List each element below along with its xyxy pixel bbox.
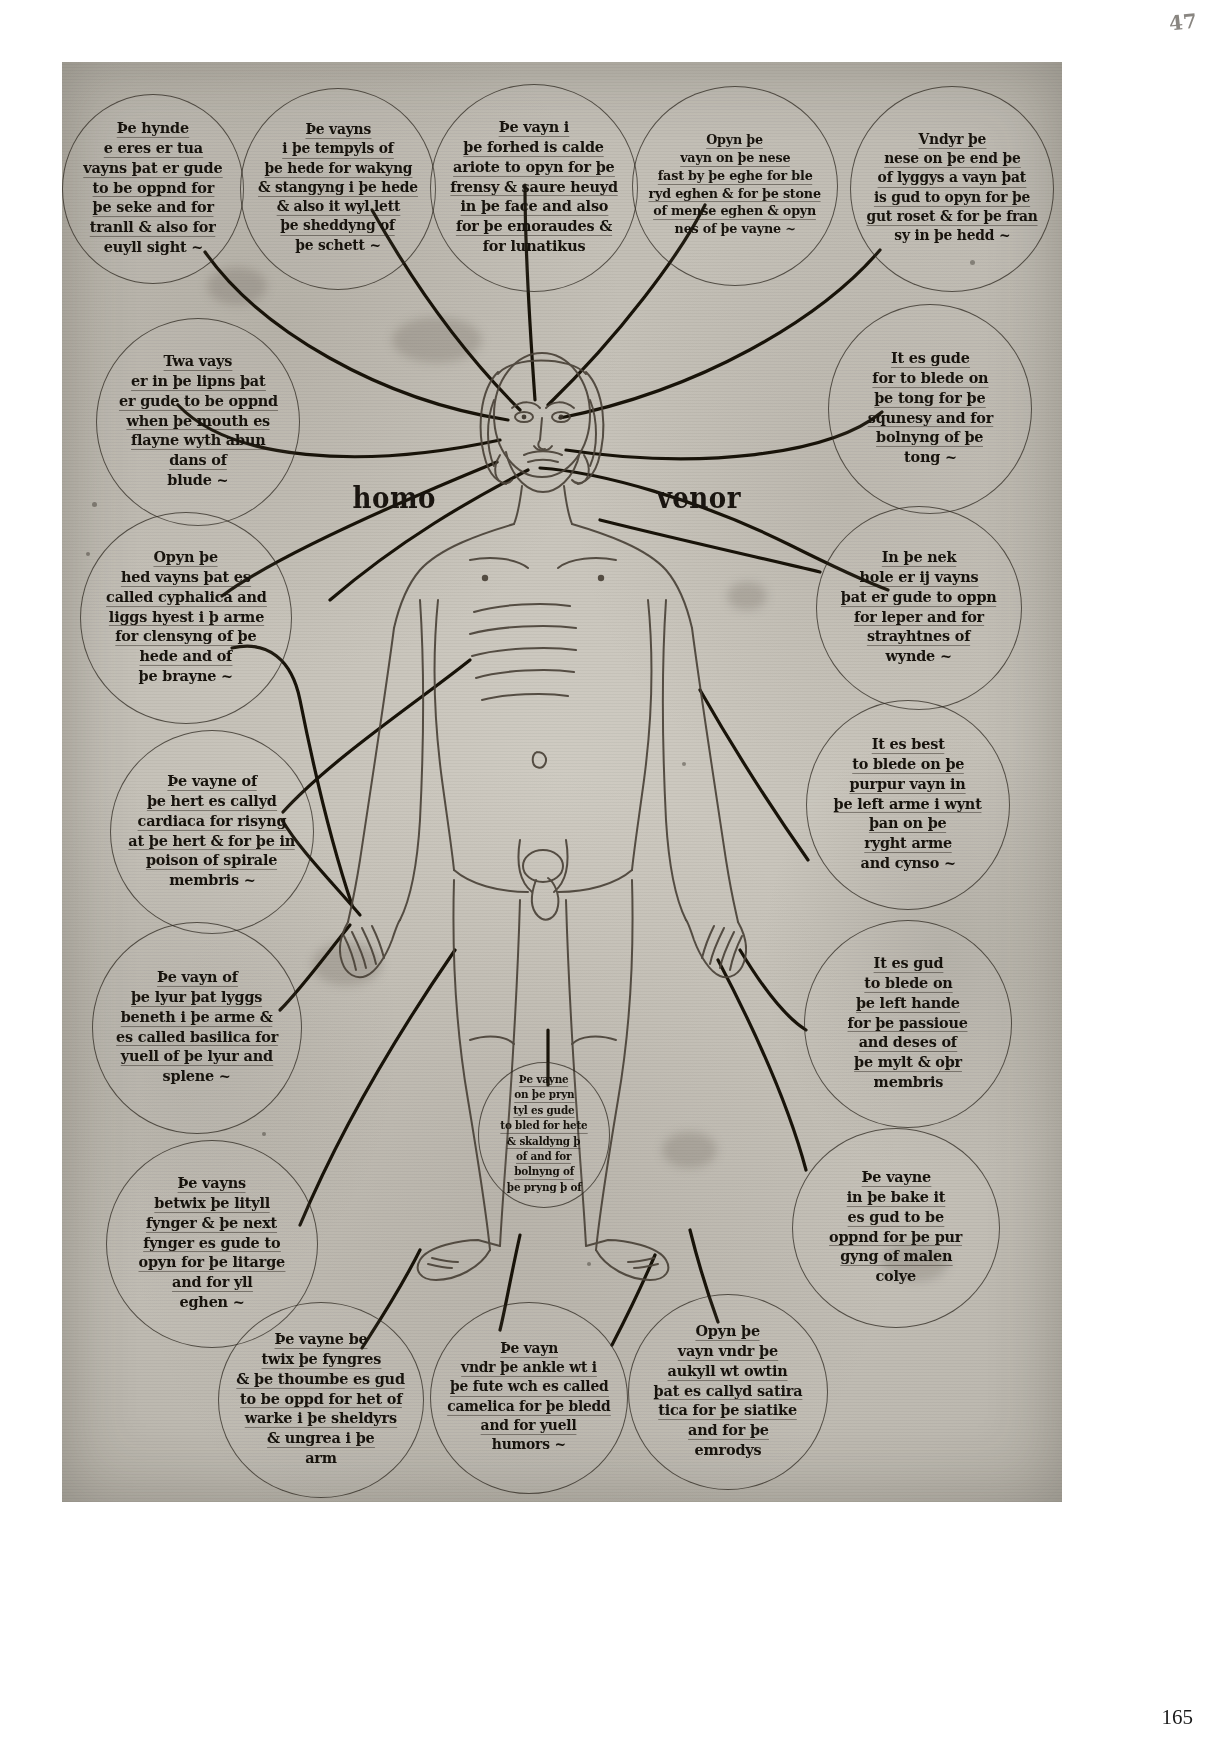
circle-back-vein[interactable]: Þe vaynein þe bake ites gud to beoppnd f… (792, 1128, 1000, 1328)
circle-text-line: i þe tempyls of (282, 141, 393, 158)
page-number: 165 (1162, 1705, 1194, 1730)
circle-text-line: strayhtnes of (867, 628, 970, 646)
circle-text-line: opyn for þe litarge (139, 1254, 286, 1272)
circle-heart-cardiaca[interactable]: Þe vayne ofþe hert es callydcardiaca for… (110, 730, 314, 934)
circle-liver-basilica[interactable]: Þe vayn ofþe lyur þat lyggsbeneth i þe a… (92, 922, 302, 1134)
circle-text-line: es gud to be (848, 1209, 944, 1227)
circle-head-cephalica[interactable]: Opyn þehed vayns þat escalled cyphalica … (80, 512, 292, 724)
circle-text-line: euyll sight ~ (103, 239, 202, 256)
circle-eyes-vein[interactable]: Þe hyndee eres er tuavayns þat er gudeto… (62, 94, 244, 284)
circle-text-line: of mense eghen & opyn (653, 204, 816, 220)
circle-text-line: gyng of malen (840, 1248, 952, 1266)
circle-text-line: to be oppd for het of (240, 1391, 402, 1409)
circle-text-line: on þe pryn (514, 1089, 574, 1102)
circle-text-line: is gud to opyn for þe (874, 190, 1030, 207)
circle-text-line: þe brayne ~ (139, 668, 233, 685)
circle-text-line: & skaldyng þ (507, 1136, 581, 1149)
circle-text-line: In þe nek (882, 549, 956, 567)
circle-text-line: Opyn þe (696, 1323, 760, 1341)
circle-text-line: vayns þat er gude (83, 160, 222, 178)
circle-text-line: nes of þe vayne ~ (674, 222, 795, 237)
circle-text-line: tyl es gude (513, 1105, 574, 1118)
circle-text-line: dans of (169, 452, 227, 470)
circle-text-line: wynde ~ (886, 648, 952, 665)
circle-text-line: called cyphalica and (106, 589, 267, 607)
circle-text-line: ariote to opyn for þe (453, 159, 615, 177)
circle-text-line: and for yuell (481, 1418, 577, 1435)
circle-text-line: humors ~ (492, 1437, 566, 1453)
circle-text-line: and for þe (688, 1422, 769, 1440)
circle-text-line: betwix þe lityll (154, 1195, 270, 1213)
circle-text-line: to blede on (864, 975, 952, 993)
circle-text-line: membris (873, 1074, 943, 1091)
circle-text-line: & stangyng i þe hede (258, 180, 418, 197)
circle-text-line: þe left hande (856, 995, 960, 1013)
circle-text-line: for to blede on (872, 370, 988, 388)
circle-text-line: in þe face and also (460, 198, 608, 216)
circle-text-line: It es gud (873, 955, 943, 973)
circle-text-line: Þe vayne (861, 1169, 930, 1187)
circle-text-line: þe schett ~ (295, 238, 381, 254)
circle-text-line: yuell of þe lyur and (121, 1048, 273, 1066)
circle-temple-vein[interactable]: Þe vaynsi þe tempyls ofþe hede for wakyn… (240, 88, 436, 290)
circle-text-line: blude ~ (167, 472, 228, 489)
circle-text-line: Þe hynde (117, 120, 189, 138)
circle-nose-eye-vein[interactable]: Opyn þevayn on þe nesefast by þe eghe fo… (632, 86, 838, 286)
circle-text-line: of lyggys a vayn þat (878, 170, 1026, 187)
circle-text-line: bolnyng of (514, 1166, 574, 1179)
circle-text-line: þe forhed is calde (464, 139, 605, 157)
circle-text-line: hole er ij vayns (860, 569, 979, 587)
circle-text-line: cardiaca for risyng (138, 813, 287, 831)
circle-purple-vein-arm[interactable]: It es bestto blede on þepurpur vayn inþe… (806, 700, 1010, 910)
circle-text-line: Opyn þe (154, 549, 218, 567)
circle-text-line: þe sheddyng of (281, 218, 396, 235)
circle-text-line: gut roset & for þe fran (866, 209, 1037, 226)
circle-text-line: liggs hyest i þ arme (108, 609, 263, 627)
circle-text-line: Twa vays (164, 353, 233, 371)
circle-text-line: þe lyur þat lyggs (131, 989, 262, 1007)
circle-text-line: Vndyr þe (918, 132, 986, 149)
circle-text-line: and for yll (172, 1274, 253, 1292)
circle-text-line: oppnd for þe pur (829, 1229, 962, 1247)
circle-text-line: fynger & þe next (146, 1215, 277, 1233)
circle-text-line: It es best (872, 736, 945, 754)
circle-text-line: nese on þe end þe (884, 151, 1020, 168)
circle-text-line: for þe passioue (848, 1015, 968, 1033)
circle-text-line: & þe thoumbe es gud (237, 1371, 405, 1389)
folio-mark: 47 (1168, 9, 1198, 36)
circle-text-line: for leper and for (854, 609, 984, 627)
circle-text-line: Þe vayne (519, 1074, 569, 1087)
circle-text-line: and deses of (859, 1034, 957, 1052)
circle-text-line: & ungrea i þe (267, 1430, 375, 1448)
circle-text-line: tong ~ (904, 449, 957, 466)
circle-text-line: colye (876, 1268, 916, 1285)
circle-text-line: ryd eghen & for þe stone (649, 187, 821, 203)
circle-text-line: Þe vayns (305, 122, 371, 139)
circle-text-line: arm (305, 1450, 337, 1467)
circle-text-line: Þe vayne be (274, 1331, 367, 1349)
circle-text-line: bolnyng of þe (876, 429, 983, 447)
circle-penis-vein[interactable]: Þe vayneon þe pryntyl es gudeto bled for… (478, 1062, 610, 1208)
circle-text-line: at þe hert & for þe in (129, 833, 296, 851)
figure-label-homo: homo (353, 481, 436, 515)
circle-tongue-vein[interactable]: It es gudefor to blede onþe tong for þes… (828, 304, 1032, 514)
circle-text-line: hede and of (140, 648, 233, 666)
circle-text-line: Þe vayn of (157, 969, 238, 987)
circle-text-line: þan on þe (869, 815, 947, 833)
circle-text-line: of and for (516, 1151, 571, 1164)
circle-text-line: þe fute wch es called (450, 1379, 609, 1396)
circle-text-line: for lunatikus (483, 238, 586, 255)
circle-sciatica-vein[interactable]: Opyn þevayn vndr þeaukyll wt owtinþat es… (628, 1294, 828, 1490)
circle-lips-veins[interactable]: Twa vayser in þe lipns þater gude to be … (96, 318, 300, 526)
circle-text-line: fast by þe eghe for ble (658, 169, 813, 185)
circle-forehead-vein[interactable]: Þe vayn iþe forhed is caldeariote to opy… (430, 84, 638, 292)
circle-text-line: Þe vayn (500, 1341, 558, 1358)
circle-thumb-vein[interactable]: Þe vayne betwix þe fyngres& þe thoumbe e… (218, 1302, 424, 1498)
circle-text-line: in þe bake it (847, 1189, 946, 1207)
circle-left-hand-vein[interactable]: It es gudto blede onþe left handefor þe … (804, 920, 1012, 1128)
circle-neck-leper[interactable]: In þe nekhole er ij vaynsþat er gude to … (816, 506, 1022, 710)
circle-ankle-vein[interactable]: Þe vaynvndr þe ankle wt iþe fute wch es … (430, 1302, 628, 1494)
circle-under-nose-vein[interactable]: Vndyr þenese on þe end þeof lyggys a vay… (850, 86, 1054, 292)
circle-text-line: Þe vayn i (499, 119, 570, 137)
circle-text-line: Opyn þe (707, 133, 764, 149)
